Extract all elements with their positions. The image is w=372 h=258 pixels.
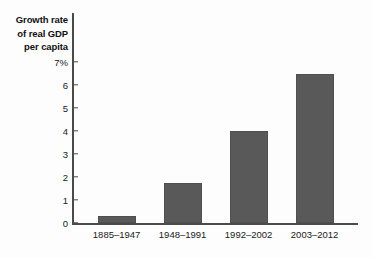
bar (296, 74, 334, 224)
bar-chart-figure: Growth rate of real GDP per capita 01234… (0, 0, 372, 258)
chart-title-line-2: of real GDP (4, 27, 68, 41)
y-tick-label: 4 (46, 126, 68, 137)
y-tick-label: 5 (46, 103, 68, 114)
bar (230, 131, 268, 223)
bar (164, 183, 202, 223)
y-tick-label: 6 (46, 80, 68, 91)
y-tick-label: 7% (46, 57, 68, 68)
y-tick-label: 3 (46, 149, 68, 160)
bar (98, 216, 136, 223)
y-tick-label: 2 (46, 172, 68, 183)
x-axis-line (72, 223, 358, 225)
chart-title-line-1: Growth rate (4, 13, 68, 27)
y-tick-label: 1 (46, 195, 68, 206)
x-tick-label: 1948–1991 (159, 229, 207, 240)
x-tick-label: 1885–1947 (93, 229, 141, 240)
x-tick-label: 2003–2012 (291, 229, 339, 240)
chart-title-line-3: per capita (4, 40, 68, 54)
chart-title: Growth rate of real GDP per capita (4, 13, 68, 54)
plot-area (74, 13, 358, 223)
y-tick-label: 0 (46, 218, 68, 229)
x-tick-label: 1992–2002 (225, 229, 273, 240)
